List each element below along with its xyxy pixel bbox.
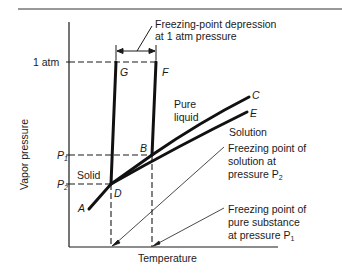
melting-line-solution xyxy=(111,62,116,184)
point-label-e: E xyxy=(250,107,258,119)
annotation-solution-fp-3: pressure P2 xyxy=(228,168,283,181)
annotation-depression-2: at 1 atm pressure xyxy=(155,30,237,42)
annotation-pure-fp-3: at pressure P1 xyxy=(228,229,294,242)
annotation-solution-fp-1: Freezing point of xyxy=(228,142,306,154)
depression-bracket xyxy=(116,26,156,60)
tick-label-1atm: 1 atm xyxy=(33,56,60,68)
region-label-pure-1: Pure xyxy=(174,98,196,110)
region-label-solid: Solid xyxy=(77,169,101,181)
phase-diagram: 1 atm P1 P2 Vapor pressure Temperature G… xyxy=(0,0,342,280)
point-label-a: A xyxy=(77,202,85,214)
point-label-g: G xyxy=(120,66,128,78)
annotation-depression-1: Freezing-point depression xyxy=(155,18,277,30)
tick-label-p2: P2 xyxy=(57,178,68,191)
point-label-f: F xyxy=(162,66,169,78)
sublimation-curve xyxy=(89,155,152,209)
annotation-pure-fp-2: pure substance xyxy=(228,216,300,228)
x-axis-label: Temperature xyxy=(138,252,197,264)
annotation-pure-fp-1: Freezing point of xyxy=(228,203,306,215)
point-label-c: C xyxy=(252,89,260,101)
tick-label-p1: P1 xyxy=(57,149,68,162)
point-label-d: D xyxy=(114,187,122,199)
region-label-pure-2: liquid xyxy=(174,111,199,123)
phase-curves xyxy=(89,62,249,209)
region-label-solution: Solution xyxy=(229,126,267,138)
annotation-arrows xyxy=(112,147,224,246)
annotation-solution-fp-2: solution at xyxy=(228,155,276,167)
melting-line-pure xyxy=(152,62,156,155)
y-axis-label: Vapor pressure xyxy=(18,119,30,190)
point-label-b: B xyxy=(140,142,147,154)
